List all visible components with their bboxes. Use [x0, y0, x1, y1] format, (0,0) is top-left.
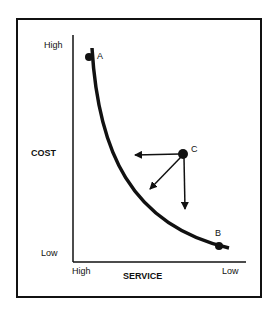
y-axis-label: COST: [31, 148, 56, 158]
tradeoff-curve: [92, 48, 229, 248]
point-c-label: C: [191, 144, 198, 154]
x-high-label: High: [72, 266, 91, 276]
arrow-left-icon: [135, 154, 180, 155]
point-b-dot: [215, 242, 223, 250]
arrow-down-left-icon: [150, 157, 181, 189]
x-axis-label: SERVICE: [123, 271, 162, 281]
arrow-down-icon: [184, 158, 185, 209]
point-a-dot: [85, 53, 93, 61]
y-high-label: High: [44, 40, 63, 50]
x-low-label: Low: [222, 266, 239, 276]
y-low-label: Low: [41, 248, 58, 258]
point-b-label: B: [215, 228, 221, 238]
point-a-label: A: [97, 51, 103, 61]
